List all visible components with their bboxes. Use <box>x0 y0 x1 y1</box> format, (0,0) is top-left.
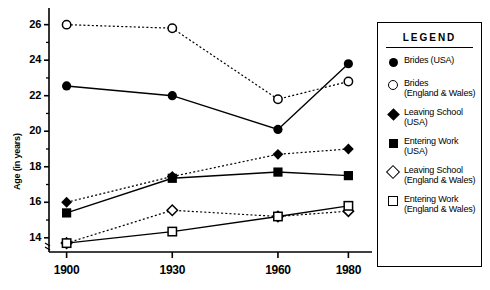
square-open-icon <box>385 194 401 208</box>
data-point <box>344 171 353 180</box>
data-point <box>62 81 71 90</box>
data-point <box>274 95 282 103</box>
data-point <box>273 149 284 160</box>
legend-item-label: Brides(England & Wales) <box>404 78 475 98</box>
data-point <box>343 144 354 155</box>
diamond-filled-icon <box>385 107 401 121</box>
series-layer <box>67 25 349 243</box>
data-point <box>62 208 71 217</box>
data-point <box>62 20 70 28</box>
data-point <box>344 59 353 68</box>
legend-item[interactable]: Entering Work(USA) <box>378 136 481 156</box>
data-point <box>344 202 352 210</box>
data-point <box>273 125 282 134</box>
chart-legend: LEGEND Brides (USA)Brides(England & Wale… <box>377 22 482 267</box>
series-line <box>67 64 349 130</box>
data-point <box>274 212 282 220</box>
chart-container: Age (in years) 14161820222426 1900193019… <box>0 0 490 290</box>
legend-item[interactable]: Brides(England & Wales) <box>378 78 481 98</box>
legend-divider <box>386 47 473 48</box>
legend-item[interactable]: Entering Work(England & Wales) <box>378 194 481 214</box>
circle-filled-icon <box>385 55 401 69</box>
legend-item[interactable]: Leaving School(England & Wales) <box>378 165 481 185</box>
legend-item[interactable]: Brides (USA) <box>378 55 481 69</box>
legend-item-label: Leaving School(England & Wales) <box>404 165 475 185</box>
data-point <box>168 227 176 235</box>
legend-items: Brides (USA)Brides(England & Wales)Leavi… <box>378 55 481 214</box>
legend-item[interactable]: Leaving School(USA) <box>378 107 481 127</box>
data-point <box>273 167 282 176</box>
data-point <box>344 77 352 85</box>
legend-item-label: Brides (USA) <box>404 55 454 65</box>
series-line <box>67 206 349 243</box>
data-point <box>167 205 177 215</box>
legend-title: LEGEND <box>378 32 481 43</box>
data-point <box>62 239 70 247</box>
data-point <box>61 197 72 208</box>
data-point <box>168 24 176 32</box>
series-line <box>67 25 349 100</box>
legend-item-label: Leaving School(USA) <box>404 107 463 127</box>
legend-item-label: Entering Work(England & Wales) <box>404 194 475 214</box>
square-filled-icon <box>385 136 401 150</box>
axes-layer <box>44 8 372 258</box>
circle-open-icon <box>385 78 401 92</box>
diamond-open-icon <box>385 165 401 179</box>
data-point <box>168 174 177 183</box>
legend-item-label: Entering Work(USA) <box>404 136 458 156</box>
data-point <box>168 91 177 100</box>
